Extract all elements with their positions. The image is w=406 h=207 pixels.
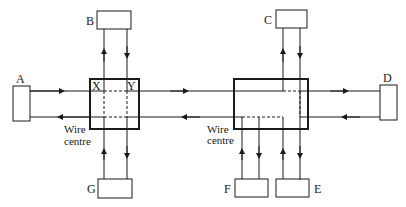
label-b: B (86, 14, 94, 28)
label-f: F (224, 182, 231, 196)
network-diagram: A B C D E F G X Y Wire centre Wire centr… (0, 0, 406, 207)
label-a: A (16, 72, 25, 86)
label-x: X (92, 79, 101, 93)
wire-centre-left-label-2: centre (64, 135, 91, 147)
station-c-box (276, 10, 307, 28)
label-c: C (264, 13, 272, 27)
station-g-box (98, 179, 132, 198)
wire-centre-left-label-1: Wire (64, 123, 86, 135)
wire-centre-right-label-2: centre (207, 134, 234, 146)
station-b-box (97, 11, 131, 29)
label-y: Y (127, 79, 136, 93)
station-a-box (13, 86, 30, 121)
label-d: D (383, 71, 392, 85)
wire-centre-right (234, 79, 308, 129)
station-e-box (276, 179, 309, 197)
label-g: G (87, 182, 96, 196)
station-f-box (235, 179, 268, 197)
label-e: E (314, 182, 321, 196)
station-d-box (380, 85, 397, 120)
